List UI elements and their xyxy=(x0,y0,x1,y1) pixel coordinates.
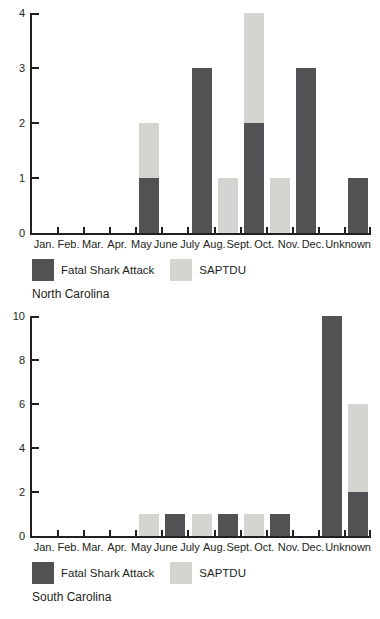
y-tick-label: 6 xyxy=(19,397,25,411)
x-tick-label: Mar. xyxy=(81,238,105,251)
bar-segment-fatal-shark-attack xyxy=(348,492,368,536)
bar-segment-fatal-shark-attack xyxy=(192,68,212,233)
y-tick-label: 8 xyxy=(19,353,25,367)
bar-segment-saptdu xyxy=(244,13,264,123)
bar-segment-saptdu xyxy=(244,514,264,536)
x-tick-label: Nov. xyxy=(277,238,301,251)
category-slot xyxy=(136,123,162,233)
category-slot xyxy=(267,514,293,536)
y-axis-labels: 01234 xyxy=(2,13,30,235)
category-slot xyxy=(345,404,371,536)
category-slot xyxy=(293,68,319,233)
x-axis-labels: Jan.Feb.Mar.Apr.MayJuneJulyAug.Sept.Oct.… xyxy=(32,541,371,554)
bar-nov xyxy=(296,68,316,233)
category-slot xyxy=(188,514,214,536)
bars-row xyxy=(32,316,371,536)
x-tick-label: Unknown xyxy=(325,541,371,554)
chart-caption-north-carolina: North Carolina xyxy=(32,287,380,301)
x-tick-label: Apr. xyxy=(105,541,129,554)
category-slot xyxy=(215,514,241,536)
bar-segment-saptdu xyxy=(139,514,159,536)
bar-unknown xyxy=(348,178,368,233)
x-tick-label: June xyxy=(154,541,178,554)
y-axis-labels: 0246810 xyxy=(2,316,30,538)
plot-row: 01234 xyxy=(2,13,380,235)
bar-segment-fatal-shark-attack xyxy=(270,514,290,536)
bar-segment-saptdu xyxy=(270,178,290,233)
bar-sept xyxy=(244,514,264,536)
y-tick-label: 1 xyxy=(19,171,25,185)
y-tick-label: 2 xyxy=(19,116,25,130)
plot-row: 0246810 xyxy=(2,316,380,538)
x-tick-label: Oct. xyxy=(252,541,276,554)
x-tick-label: June xyxy=(154,238,178,251)
bar-sept xyxy=(244,13,264,233)
x-tick-label: Oct. xyxy=(252,238,276,251)
bar-segment-fatal-shark-attack xyxy=(244,123,264,233)
category-slot xyxy=(241,13,267,233)
x-tick-label: Apr. xyxy=(105,238,129,251)
x-tick-label: Feb. xyxy=(56,541,80,554)
x-tick-label: Feb. xyxy=(56,238,80,251)
y-tick-label: 3 xyxy=(19,61,25,75)
category-slot xyxy=(215,178,241,233)
bar-segment-fatal-shark-attack xyxy=(296,68,316,233)
chart-north-carolina: 01234 Jan.Feb.Mar.Apr.MayJuneJulyAug.Sep… xyxy=(0,0,380,301)
bars-row xyxy=(32,13,371,233)
y-tick-label: 0 xyxy=(19,226,25,240)
bar-aug xyxy=(218,514,238,536)
chart-south-carolina: 0246810 Jan.Feb.Mar.Apr.MayJuneJulyAug.S… xyxy=(0,301,380,604)
x-tick-label: July xyxy=(178,541,202,554)
bar-unknown xyxy=(348,404,368,536)
y-tick-label: 2 xyxy=(19,485,25,499)
y-tick-label: 0 xyxy=(19,529,25,543)
category-slot xyxy=(188,68,214,233)
category-slot xyxy=(267,178,293,233)
bar-aug xyxy=(218,178,238,233)
y-tick-label: 4 xyxy=(19,6,25,20)
plot-area xyxy=(30,13,371,235)
category-slot xyxy=(319,316,345,536)
bar-segment-fatal-shark-attack xyxy=(139,178,159,233)
x-tick-label: July xyxy=(178,238,202,251)
bar-segment-saptdu xyxy=(139,123,159,178)
bar-segment-saptdu xyxy=(348,404,368,492)
x-tick-label: Jan. xyxy=(32,541,56,554)
x-axis-labels: Jan.Feb.Mar.Apr.MayJuneJulyAug.Sept.Oct.… xyxy=(32,238,371,251)
legend-label-fatal-shark-attack: Fatal Shark Attack xyxy=(61,567,154,579)
category-slot xyxy=(162,514,188,536)
x-tick-label: Mar. xyxy=(81,541,105,554)
bar-may xyxy=(139,123,159,233)
bar-july xyxy=(192,514,212,536)
category-slot xyxy=(136,514,162,536)
y-tick-label: 10 xyxy=(13,309,25,323)
x-tick-label: Aug. xyxy=(202,541,226,554)
category-slot xyxy=(241,514,267,536)
x-tick-label: Jan. xyxy=(32,238,56,251)
bar-july xyxy=(192,68,212,233)
legend: Fatal Shark Attack SAPTDU xyxy=(32,562,380,584)
category-slot xyxy=(345,178,371,233)
bar-segment-fatal-shark-attack xyxy=(165,514,185,536)
bar-may xyxy=(139,514,159,536)
chart-caption-south-carolina: South Carolina xyxy=(32,590,380,604)
legend-swatch-saptdu xyxy=(170,259,192,281)
x-tick-label: Nov. xyxy=(277,541,301,554)
bar-segment-saptdu xyxy=(192,514,212,536)
plot-area xyxy=(30,316,371,538)
x-tick-label: May xyxy=(129,238,153,251)
x-tick-label: Dec. xyxy=(301,541,325,554)
bar-segment-fatal-shark-attack xyxy=(348,178,368,233)
legend-swatch-fatal-shark-attack xyxy=(32,259,54,281)
x-tick-label: Aug. xyxy=(202,238,226,251)
legend: Fatal Shark Attack SAPTDU xyxy=(32,259,380,281)
x-tick-label: May xyxy=(129,541,153,554)
bar-segment-saptdu xyxy=(218,178,238,233)
legend-label-saptdu: SAPTDU xyxy=(199,567,246,579)
bar-dec xyxy=(322,316,342,536)
legend-label-saptdu: SAPTDU xyxy=(199,264,246,276)
legend-label-fatal-shark-attack: Fatal Shark Attack xyxy=(61,264,154,276)
legend-swatch-saptdu xyxy=(170,562,192,584)
bar-oct xyxy=(270,178,290,233)
x-tick-label: Sept. xyxy=(227,238,253,251)
